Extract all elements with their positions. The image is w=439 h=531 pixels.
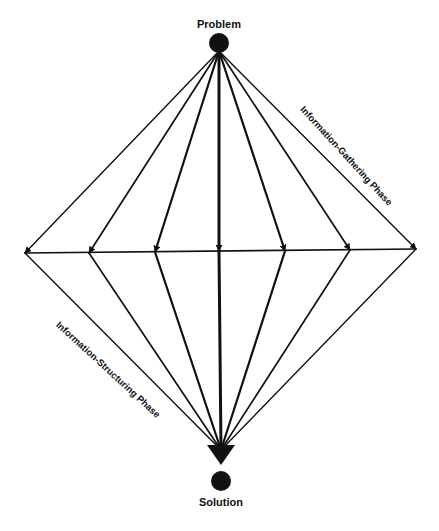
structuring-line bbox=[25, 253, 221, 450]
structuring-line bbox=[89, 253, 221, 450]
gathering-arrow bbox=[25, 51, 219, 253]
solution-node bbox=[211, 471, 231, 491]
structuring-phase-label: Information-Structuring Phase bbox=[54, 319, 163, 420]
problem-node bbox=[209, 33, 229, 53]
structuring-line bbox=[221, 249, 416, 450]
problem-label: Problem bbox=[197, 18, 241, 30]
structuring-line bbox=[155, 252, 221, 450]
structuring-line bbox=[221, 250, 350, 450]
structuring-line bbox=[221, 251, 285, 450]
gathering-arrow bbox=[219, 51, 285, 251]
connector-lines bbox=[25, 51, 416, 450]
gathering-arrow bbox=[219, 51, 416, 249]
gathering-arrow bbox=[89, 51, 219, 253]
structuring-line bbox=[219, 251, 221, 450]
gathering-arrow bbox=[155, 51, 219, 252]
solution-label: Solution bbox=[199, 496, 243, 508]
problem-solving-diagram: Problem Solution Information-Gathering P… bbox=[0, 0, 439, 531]
gathering-arrow bbox=[219, 51, 350, 250]
solution-arrowhead bbox=[207, 445, 235, 465]
